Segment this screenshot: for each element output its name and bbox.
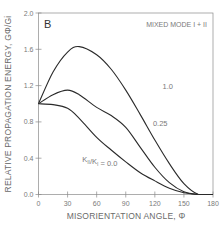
series-curve-0-25: [39, 90, 214, 194]
x-tick-label: 120: [149, 200, 161, 207]
y-tick-label: 0.0: [24, 191, 34, 198]
y-tick-label: 1.6: [24, 46, 34, 53]
y-tick-label: 0.8: [24, 118, 34, 125]
y-tick-label: 0.4: [24, 155, 34, 162]
data-curves: [39, 47, 214, 195]
y-axis-title: RELATIVE PROPAGATION ENERGY, GΦ/Gi: [3, 16, 13, 193]
x-axis-title: MISORIENTATION ANGLE, Φ: [67, 211, 186, 221]
x-tick-label: 30: [64, 200, 72, 207]
x-tick-label: 60: [93, 200, 101, 207]
series-label-0-0: KII/KI = 0.0: [82, 155, 117, 168]
plot-border: [39, 13, 214, 195]
line-chart: 0.00.40.81.21.62.0 0306090120150180 1.00…: [0, 0, 223, 225]
series-labels: 1.00.25KII/KI = 0.0: [82, 82, 173, 168]
x-tick-label: 0: [37, 200, 41, 207]
series-label-1-0: 1.0: [163, 82, 173, 91]
x-tick-label: 180: [207, 200, 219, 207]
plot-frame: [39, 13, 214, 195]
y-tick-label: 1.2: [24, 82, 34, 89]
annotation-mode: MIXED MODE I + II: [146, 21, 207, 28]
panel-label: B: [44, 18, 51, 30]
series-curve-1-0: [39, 47, 214, 195]
x-tick-label: 90: [122, 200, 130, 207]
y-tick-label: 2.0: [24, 10, 34, 17]
x-tick-label: 150: [178, 200, 190, 207]
series-label-0-25: 0.25: [153, 119, 168, 128]
series-curve-0-0: [39, 104, 214, 195]
